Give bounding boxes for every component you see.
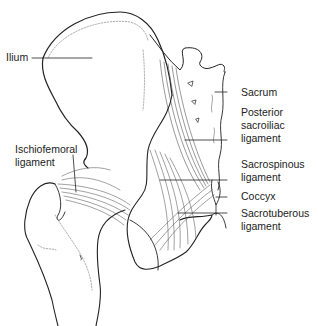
posterior-sacroiliac-fibers (160, 60, 210, 190)
ischiofemoral-fibers (58, 168, 130, 225)
sacrotuberous-fibers (150, 150, 214, 250)
label-line: sacroiliac (241, 119, 285, 132)
label-line: ligament (241, 171, 305, 184)
ischium-outline (127, 95, 212, 269)
label-line: ligament (241, 132, 285, 145)
label-sacrospinous-ligament: Sacrospinous ligament (241, 158, 305, 184)
label-line: ligament (15, 156, 77, 169)
ilium-outline (43, 12, 172, 95)
label-line: Ischiofemoral (15, 143, 77, 156)
coccyx-outline (211, 180, 220, 205)
label-line: Sacrum (241, 86, 277, 99)
femur-outline (25, 183, 58, 326)
label-line: Posterior (241, 106, 285, 119)
label-line: Sacrotuberous (241, 207, 309, 220)
label-sacrum: Sacrum (241, 86, 277, 99)
label-line: Coccyx (241, 190, 275, 203)
label-ilium: Ilium (6, 51, 28, 64)
label-line: Ilium (6, 51, 28, 64)
label-ischiofemoral-ligament: Ischiofemoral ligament (15, 143, 77, 169)
sacrum-outline (150, 35, 225, 72)
leader-lines (32, 58, 227, 213)
label-sacrotuberous-ligament: Sacrotuberous ligament (241, 207, 309, 233)
label-coccyx: Coccyx (241, 190, 275, 203)
label-line: Sacrospinous (241, 158, 305, 171)
label-line: ligament (241, 220, 309, 233)
label-posterior-sacroiliac-ligament: Posterior sacroiliac ligament (241, 106, 285, 145)
